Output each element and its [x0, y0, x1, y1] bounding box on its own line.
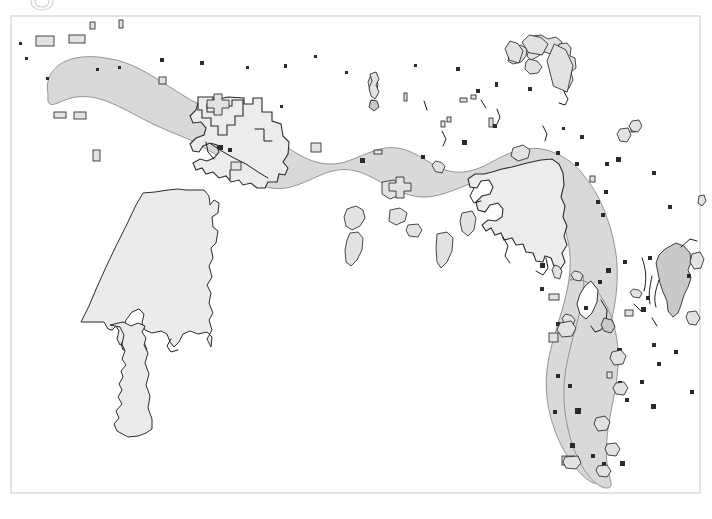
islet-dot	[575, 408, 581, 414]
islet-rect	[607, 372, 612, 378]
islet-dot	[314, 55, 317, 58]
islet-rect	[119, 20, 123, 28]
islet-dot	[540, 263, 545, 268]
islet-dot	[596, 200, 600, 204]
islet-dot	[575, 162, 579, 166]
islet-dot	[421, 155, 425, 159]
islet-dot	[657, 362, 661, 366]
islet-dot	[652, 343, 656, 347]
islet-dot	[625, 398, 629, 402]
islet-dot	[598, 280, 602, 284]
islet-dot	[414, 64, 417, 67]
map-figure-root	[0, 0, 712, 519]
islet-dot	[687, 274, 691, 278]
islet-rect	[549, 294, 559, 300]
islet-rect	[471, 95, 476, 99]
islet-dot	[646, 296, 650, 300]
islet-dot	[651, 404, 656, 409]
islet-rect	[441, 121, 445, 127]
islet-dot	[641, 307, 646, 312]
islet-dot	[493, 124, 497, 128]
islet-dot	[648, 256, 652, 260]
islet-dot	[19, 42, 22, 45]
islet-dot	[280, 105, 283, 108]
islet-dot	[118, 66, 121, 69]
islet-dot	[528, 87, 532, 91]
islet-rect	[74, 112, 86, 119]
islet-dot	[246, 66, 249, 69]
islet-dot	[540, 287, 544, 291]
islet-dot	[652, 171, 656, 175]
central-region-small-box	[231, 162, 241, 170]
islet-dot	[228, 148, 232, 152]
islet-dot	[218, 145, 223, 150]
islet-dot	[604, 190, 608, 194]
islet-dot	[568, 384, 572, 388]
islet-dot	[620, 461, 625, 466]
islet-dot	[360, 158, 365, 163]
islet-rect	[460, 98, 467, 102]
islet-dot	[623, 260, 627, 264]
islet-rect	[311, 143, 321, 152]
islet-rect	[447, 117, 451, 122]
islet-dot	[25, 57, 28, 60]
islet-dot	[46, 77, 49, 80]
map-canvas	[0, 0, 712, 519]
islet-dot	[616, 157, 621, 162]
islet-dot	[476, 89, 480, 93]
islet-rect	[404, 93, 407, 101]
islet-dot	[553, 410, 557, 414]
islet-dot	[556, 151, 560, 155]
islet-rect	[69, 35, 85, 43]
islet-dot	[580, 135, 584, 139]
islet-rect	[489, 118, 493, 127]
islet-dot	[160, 58, 164, 62]
islet-dot	[674, 350, 678, 354]
islet-rect	[625, 310, 633, 316]
islet-rect	[36, 36, 54, 46]
islet-dot	[556, 374, 560, 378]
islet-dot	[200, 61, 204, 65]
islet-dot	[562, 127, 565, 130]
islet-dot	[570, 443, 575, 448]
islet-rect	[159, 77, 166, 84]
islet-rect	[90, 22, 95, 29]
islet-dot	[345, 71, 348, 74]
islet-rect	[54, 112, 66, 118]
islet-rect	[590, 176, 595, 182]
islet-dot	[462, 140, 467, 145]
islet-dot	[456, 67, 460, 71]
islet-dot	[96, 68, 99, 71]
islet-dot	[690, 390, 694, 394]
islet-far-right-mid	[690, 252, 704, 269]
islet-dot	[495, 82, 498, 87]
islet-dot	[284, 64, 287, 68]
islet-rect	[93, 150, 100, 161]
islet-dot	[606, 268, 611, 273]
islet-dot	[668, 205, 672, 209]
islet-rect	[549, 333, 558, 342]
islet-dot	[601, 213, 605, 217]
islet-rect	[374, 150, 382, 154]
islet-dot	[605, 162, 609, 166]
islet-dot	[640, 380, 644, 384]
islet-dot	[591, 454, 595, 458]
islet-dot	[584, 306, 588, 310]
